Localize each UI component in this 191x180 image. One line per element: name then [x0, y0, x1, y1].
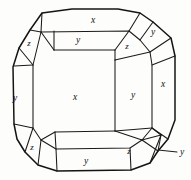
face-label-bottom-right-z: z — [126, 146, 131, 156]
edge-bottom-band-left — [55, 132, 56, 149]
edge-right-panel-botb — [115, 128, 152, 131]
edge-left-upper-a — [19, 48, 33, 65]
edge-right-upper-b — [150, 38, 171, 52]
leader-line-group — [158, 150, 177, 152]
face-label-bottom-left-z: z — [29, 142, 34, 152]
face-label-leader-y: y — [179, 147, 185, 157]
crystal-diagram-svg: x y z z y x x y y z y z y — [0, 0, 191, 180]
face-label-top-right-y: y — [150, 27, 156, 37]
crystal-figure: x y z z y x x y y z y z y — [0, 0, 191, 180]
edge-left-upper-b — [14, 65, 33, 66]
face-label-top-right-z: z — [124, 41, 129, 51]
edge-right-panel-topa — [115, 52, 150, 60]
edge-br-sliver-a — [152, 128, 161, 135]
face-label-left-y: y — [12, 93, 18, 103]
edge-right-upper-a — [152, 56, 175, 65]
face-label-right-x: x — [160, 79, 166, 89]
edge-left-lower-a — [14, 124, 33, 128]
edge-br-sliver-d — [142, 135, 161, 140]
face-label-top-left-z: z — [26, 38, 31, 48]
face-label-top-x: x — [90, 15, 96, 25]
edge-top-right-b — [129, 13, 140, 31]
face-label-center-x: x — [72, 92, 78, 102]
face-label-bottom-y-band: y — [83, 156, 89, 166]
edge-right-panel-bota — [115, 131, 142, 140]
face-label-right-y: y — [130, 90, 136, 100]
edge-bottom-left-a — [38, 140, 41, 165]
edge-top-left-corner-a — [41, 13, 42, 32]
edge-bottom-left-b — [56, 149, 57, 171]
edge-bottom-band-corner — [41, 132, 55, 140]
edge-top-band-to-corner — [41, 32, 54, 50]
edge-bottom-band-top — [55, 131, 115, 132]
edge-top-left-corner-b — [30, 30, 41, 32]
leader-line-to-y — [158, 150, 177, 152]
face-label-top-y-band: y — [75, 35, 81, 45]
